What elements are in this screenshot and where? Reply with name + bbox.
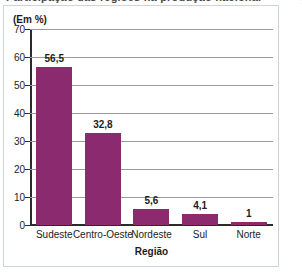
x-axis-category-labels: SudesteCentro-OesteNordesteSulNorte — [30, 229, 273, 245]
x-axis-title: Região — [30, 246, 273, 257]
x-axis-category-label: Sudeste — [36, 229, 73, 240]
bar-slot: 32,8 — [79, 29, 128, 225]
x-axis-category-label: Nordeste — [131, 229, 172, 240]
plot-area: 56,532,85,64,11 — [30, 29, 273, 225]
x-axis-category-label: Centro-Oeste — [73, 229, 133, 240]
bar-value-label: 4,1 — [193, 200, 207, 211]
y-axis-tick-label: 40 — [14, 108, 25, 119]
y-axis-tick-labels: 010203040506070 — [4, 29, 25, 225]
bar — [85, 133, 121, 225]
chart-figure: (Em %) 010203040506070 56,532,85,64,11 S… — [3, 5, 279, 267]
x-axis-category-label: Norte — [236, 229, 260, 240]
bar-slot: 56,5 — [30, 29, 79, 225]
bar-slot: 4,1 — [176, 29, 225, 225]
y-axis-tick-label: 60 — [14, 52, 25, 63]
image-credit: Adilson Secco/ID/BR — [301, 0, 302, 4]
bar-slot: 1 — [224, 29, 273, 225]
bar — [36, 67, 72, 225]
bar-value-label: 5,6 — [145, 195, 159, 206]
bar-value-label: 1 — [246, 208, 252, 219]
bar — [182, 214, 218, 225]
bar-value-label: 56,5 — [45, 53, 64, 64]
y-axis-tick-label: 10 — [14, 192, 25, 203]
y-axis-tick-label: 50 — [14, 80, 25, 91]
y-axis-tick-label: 20 — [14, 164, 25, 175]
bar-value-label: 32,8 — [93, 119, 112, 130]
y-axis-tick-label: 30 — [14, 136, 25, 147]
bar — [133, 209, 169, 225]
y-axis-tick-label: 70 — [14, 24, 25, 35]
cut-off-title: Participação das regiões na produção nac… — [6, 0, 302, 3]
bar-slot: 5,6 — [127, 29, 176, 225]
x-axis-category-label: Sul — [193, 229, 207, 240]
bar — [231, 222, 267, 225]
